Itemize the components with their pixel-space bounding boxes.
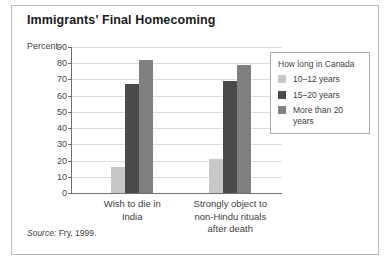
plot-area: 0102030405060708090Wish to die inIndiaSt… [71,47,282,194]
y-tick-mark [68,96,71,97]
x-axis-group-label: Wish to die inIndia [77,198,187,223]
y-gridline [72,47,282,48]
legend-item: 10–12 years [278,74,362,85]
bar [111,167,125,193]
legend-item: 15–20 years [278,90,362,101]
source-prefix: Source: [27,228,56,238]
bar [223,81,237,193]
bar [237,65,251,193]
y-tick-label: 90 [57,42,67,52]
y-tick-mark [68,128,71,129]
y-tick-mark [68,47,71,48]
y-tick-label: 30 [57,139,67,149]
bar [139,60,153,193]
y-tick-label: 80 [57,58,67,68]
y-tick-label: 40 [57,123,67,133]
y-tick-mark [68,161,71,162]
bar [125,84,139,193]
y-axis-line [71,47,72,194]
chart-title: Immigrants' Final Homecoming [27,13,215,27]
legend-item-label: 15–20 years [293,90,340,101]
legend-item-label: More than 20 years [293,105,362,126]
source-text: Fry, 1999. [59,228,97,238]
y-tick-label: 70 [57,74,67,84]
x-axis-line [71,193,282,194]
y-tick-label: 20 [57,156,67,166]
legend-title: How long in Canada [278,59,362,69]
legend-item-label: 10–12 years [293,74,340,85]
y-tick-label: 10 [57,172,67,182]
y-tick-mark [68,63,71,64]
legend-item: More than 20 years [278,105,362,126]
x-axis-group-label: Strongly object tonon-Hindu ritualsafter… [175,198,285,236]
source-note: Source: Fry, 1999. [27,228,96,238]
y-tick-label: 60 [57,91,67,101]
y-tick-mark [68,177,71,178]
y-tick-mark [68,144,71,145]
bar [209,159,223,193]
chart-figure: Immigrants' Final Homecoming Percent 010… [0,0,390,262]
y-tick-mark [68,112,71,113]
y-tick-mark [68,193,71,194]
y-tick-label: 0 [62,188,67,198]
y-tick-label: 50 [57,107,67,117]
chart-legend: How long in Canada 10–12 years 15–20 yea… [270,52,370,134]
y-tick-mark [68,79,71,80]
legend-swatch-icon [278,91,286,99]
legend-swatch-icon [278,106,286,114]
y-axis-label: Percent [27,41,58,51]
legend-swatch-icon [278,75,286,83]
